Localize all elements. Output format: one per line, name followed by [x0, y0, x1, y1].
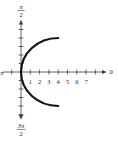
- angle-label-3pi-over-2-numerator: 3π: [17, 122, 25, 129]
- angle-label-pi-over-2-numerator: π: [19, 3, 23, 10]
- down-arrowhead-icon: [19, 115, 23, 120]
- radial-tick-label: 4: [57, 78, 61, 85]
- angle-label-3pi-over-2-denominator: 2: [19, 130, 22, 137]
- radial-tick-label: 1: [29, 78, 32, 85]
- polar-plot-figure: 12345670ππ23π2: [0, 0, 118, 142]
- right-arrowhead-icon: [102, 70, 107, 74]
- up-arrowhead-icon: [19, 20, 23, 25]
- angle-label-0: 0: [110, 68, 113, 75]
- radial-tick-label: 5: [66, 78, 69, 85]
- radial-tick-label: 7: [84, 78, 88, 85]
- polar-plot-canvas: 12345670ππ23π2: [0, 0, 118, 142]
- radial-tick-label: 3: [47, 78, 50, 85]
- radial-tick-label: 6: [75, 78, 78, 85]
- angle-label-pi-over-2-denominator: 2: [19, 11, 22, 18]
- radial-tick-label: 2: [38, 78, 41, 85]
